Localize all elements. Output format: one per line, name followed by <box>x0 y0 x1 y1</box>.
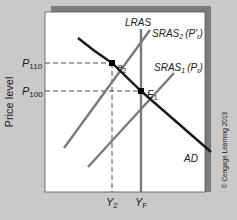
chart-stage: Price level P110 P100 Y2 YF LRAS SRAS2(P… <box>0 0 237 220</box>
as-ad-chart: Price level P110 P100 Y2 YF LRAS SRAS2(P… <box>0 0 237 220</box>
lras-label: LRAS <box>125 17 151 28</box>
point-e1 <box>138 88 144 94</box>
p100-label: P100 <box>22 85 43 99</box>
sras2-label: SRAS2(P'r) <box>152 28 203 40</box>
sras1-label: SRAS1(Pr) <box>154 62 203 74</box>
y-axis-label: Price level <box>3 77 15 128</box>
yf-label: YF <box>135 196 147 210</box>
point-e2 <box>109 60 115 66</box>
copyright-text: © Cengage Learning 2013 <box>221 111 229 188</box>
p110-label: P110 <box>22 57 43 71</box>
ad-label: AD <box>183 153 198 164</box>
y2-label: Y2 <box>106 196 118 210</box>
